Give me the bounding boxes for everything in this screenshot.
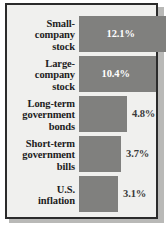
category-label-line: U.S.: [7, 184, 75, 195]
category-label-line: stock: [7, 81, 75, 92]
bar: [79, 96, 127, 132]
category-label-line: government: [7, 109, 75, 120]
figure: Small-companystock12.1%Large-companystoc…: [0, 0, 168, 232]
category-label-line: company: [7, 29, 75, 40]
value-label: 12.1%: [107, 16, 135, 52]
bar-row: Long-termgovernmentbonds4.8%: [7, 95, 156, 135]
category-label-line: company: [7, 69, 75, 80]
bar: [79, 136, 121, 172]
value-label: 3.7%: [126, 136, 149, 172]
value-label: 3.1%: [123, 176, 146, 212]
category-label-line: stock: [7, 41, 75, 52]
category-label: Long-termgovernmentbonds: [7, 98, 75, 132]
value-label: 10.4%: [102, 56, 130, 92]
category-label: U.S.inflation: [7, 184, 75, 206]
bar-chart-plot: Small-companystock12.1%Large-companystoc…: [7, 5, 156, 217]
bar: [79, 176, 118, 212]
category-label-line: bonds: [7, 121, 75, 132]
category-label: Small-companystock: [7, 18, 75, 52]
category-label-line: government: [7, 149, 75, 160]
category-label: Large-companystock: [7, 58, 75, 92]
category-label-line: bills: [7, 161, 75, 172]
chart-frame: Small-companystock12.1%Large-companystoc…: [5, 3, 158, 219]
category-label-line: Large-: [7, 58, 75, 69]
bar-row: U.S.inflation3.1%: [7, 175, 156, 215]
bar-row: Large-companystock10.4%: [7, 55, 156, 95]
bar-row: Small-companystock12.1%: [7, 15, 156, 55]
bar-row: Short-termgovernmentbills3.7%: [7, 135, 156, 175]
category-label-line: Short-term: [7, 138, 75, 149]
category-label-line: Small-: [7, 18, 75, 29]
category-label-line: inflation: [7, 195, 75, 206]
category-label: Short-termgovernmentbills: [7, 138, 75, 172]
value-label: 4.8%: [132, 96, 155, 132]
category-label-line: Long-term: [7, 98, 75, 109]
